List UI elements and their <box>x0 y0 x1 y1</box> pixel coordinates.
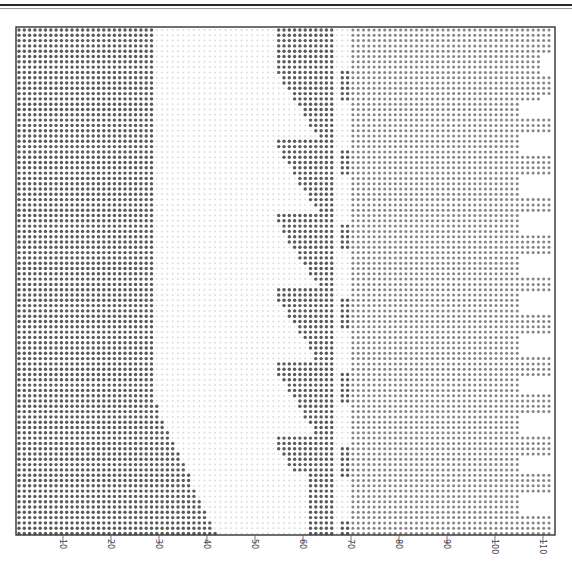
x-tick-label: 110 <box>538 539 547 554</box>
x-tick-label: 10 <box>58 539 67 549</box>
x-tick-label: 50 <box>250 539 259 549</box>
x-tick-label: 60 <box>298 539 307 549</box>
x-tick-label: 90 <box>442 539 451 549</box>
x-tick-label: 40 <box>202 539 211 549</box>
x-tick-label: 70 <box>346 539 355 549</box>
x-tick-label: 20 <box>106 539 115 549</box>
x-tick-label: 100 <box>490 539 499 554</box>
x-axis-ticks: 102030405060708090100110 <box>58 535 547 554</box>
x-tick-label: 30 <box>154 539 163 549</box>
dot-field <box>17 28 550 535</box>
dot-matrix-figure: 102030405060708090100110 <box>0 0 572 564</box>
x-tick-label: 80 <box>394 539 403 549</box>
